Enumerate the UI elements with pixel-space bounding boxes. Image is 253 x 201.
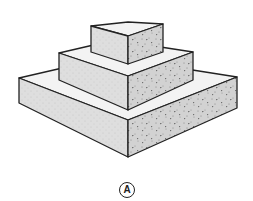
- stepped-pyramid-illustration: [0, 0, 253, 201]
- diagram-canvas: A: [0, 0, 253, 201]
- figure-label: A: [119, 182, 135, 198]
